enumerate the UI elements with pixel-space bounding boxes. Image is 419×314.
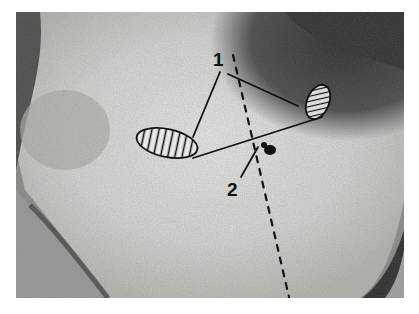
label-1: 1 — [213, 49, 224, 70]
label-2: 2 — [227, 179, 238, 200]
photo — [16, 12, 404, 298]
photo-grain — [16, 12, 404, 298]
annotated-photograph: 1 2 — [0, 0, 419, 314]
